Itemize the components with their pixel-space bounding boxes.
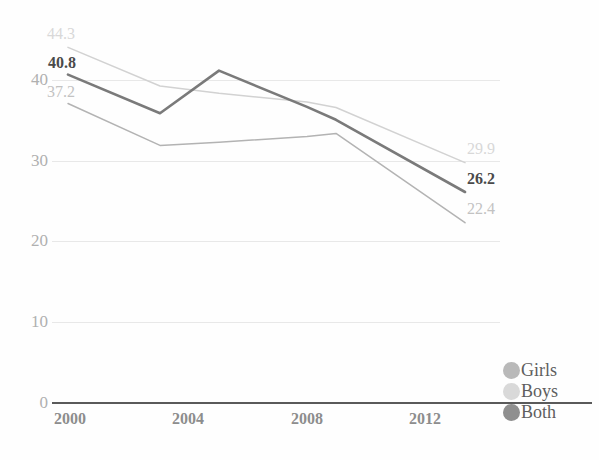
- end-label-boys: 29.9: [467, 140, 495, 158]
- start-label-both: 40.8: [48, 54, 76, 72]
- chart-legend: Girls Boys Both: [503, 360, 597, 423]
- end-label-girls: 22.4: [467, 200, 495, 218]
- legend-marker-both-icon: [503, 404, 520, 421]
- legend-marker-boys-icon: [503, 383, 520, 400]
- legend-label-girls: Girls: [521, 361, 557, 380]
- line-chart: 40 30 20 10 0 2000 2004 2008 2012 44.3 4…: [0, 0, 599, 460]
- legend-label-both: Both: [521, 403, 556, 422]
- legend-marker-girls-icon: [503, 362, 520, 379]
- y-tick-30: 30: [14, 151, 48, 171]
- y-tick-10: 10: [14, 312, 48, 332]
- x-tick-2004: 2004: [153, 410, 223, 428]
- series-line-boys: [68, 47, 465, 162]
- x-tick-2008: 2008: [272, 410, 342, 428]
- end-label-both: 26.2: [467, 170, 495, 188]
- legend-item-girls[interactable]: Girls: [503, 360, 597, 381]
- start-label-boys: 44.3: [47, 25, 75, 43]
- legend-item-both[interactable]: Both: [503, 402, 597, 423]
- x-tick-2000: 2000: [35, 410, 105, 428]
- x-tick-2012: 2012: [390, 410, 460, 428]
- legend-label-boys: Boys: [521, 382, 558, 401]
- series-line-girls: [68, 104, 465, 223]
- y-tick-20: 20: [14, 231, 48, 251]
- legend-item-boys[interactable]: Boys: [503, 381, 597, 402]
- start-label-girls: 37.2: [47, 83, 75, 101]
- y-tick-40: 40: [14, 70, 48, 90]
